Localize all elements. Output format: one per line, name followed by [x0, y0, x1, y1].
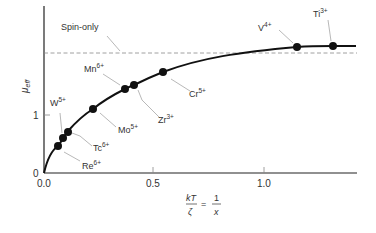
point-v [293, 43, 301, 51]
x-tick-label-10: 1.0 [257, 178, 271, 189]
y-axis-label: μeff [19, 79, 31, 94]
x-axis-label: kT ζ = 1 x [186, 193, 221, 217]
spin-only-label: Spin-only [61, 22, 99, 32]
point-mo [89, 105, 97, 113]
label-zr: Zr3+ [158, 113, 174, 125]
x-tick-label-05: 0.5 [146, 178, 160, 189]
svg-text:ζ: ζ [188, 207, 193, 217]
label-re: Re6+ [82, 159, 101, 171]
point-tc [64, 128, 72, 136]
point-cr [159, 68, 167, 76]
x-tick-label-0: 0.0 [37, 178, 51, 189]
label-v: V4+ [258, 21, 272, 33]
point-re [54, 142, 62, 150]
spin-only-arrow [107, 36, 120, 51]
label-mo: Mo5+ [118, 123, 138, 135]
point-mn [121, 85, 129, 93]
svg-text:μeff: μeff [19, 79, 31, 94]
chart: 0 1 0.0 0.5 1.0 μeff kT ζ = 1 x Spin-onl… [0, 0, 376, 233]
label-mn: Mn6+ [84, 62, 104, 74]
svg-text:kT: kT [186, 193, 198, 203]
label-w: W5+ [50, 96, 66, 108]
svg-text:=: = [201, 199, 206, 209]
label-tc: Tc6+ [93, 141, 110, 153]
svg-text:1: 1 [214, 193, 219, 203]
point-zr [130, 81, 138, 89]
y-tick-label-1: 1 [33, 110, 39, 121]
label-cr: Cr5+ [189, 87, 206, 99]
svg-text:x: x [213, 207, 219, 217]
point-ti [329, 42, 337, 50]
label-ti: Ti3+ [313, 7, 328, 19]
